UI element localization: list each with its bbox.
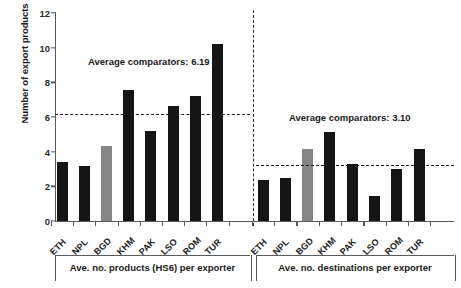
x-axis-category-label: KHM [115, 235, 137, 257]
x-axis-category-label: BGD [92, 236, 113, 257]
y-axis-tick-label: 2 [22, 181, 50, 192]
x-axis-category-label: PAK [137, 237, 157, 257]
y-axis-tick-mark [51, 151, 56, 152]
y-axis-tick-label: 6 [22, 112, 50, 123]
x-axis-tick-mark [184, 221, 185, 226]
bar [302, 149, 313, 221]
x-axis-tick-mark [319, 221, 320, 226]
x-axis-tick-mark [73, 221, 74, 226]
x-axis-category-label: ETH [48, 237, 68, 257]
x-axis-tick-mark [363, 221, 364, 226]
bar [391, 169, 402, 221]
x-axis-tick-mark [51, 221, 52, 226]
x-axis-tick-mark [341, 221, 342, 226]
y-axis-tick-label: 10 [22, 42, 50, 53]
bar [324, 132, 335, 221]
average-reference-line [55, 114, 250, 115]
group-frame-top [256, 255, 454, 256]
bar [347, 164, 358, 221]
y-axis-tick-mark [51, 47, 56, 48]
bar [123, 90, 134, 221]
bar [414, 149, 425, 221]
y-axis-tick-mark [51, 116, 56, 117]
x-axis-tick-mark [162, 221, 163, 226]
y-axis-tick-label: 12 [22, 8, 50, 19]
bar [280, 178, 291, 221]
bar-chart: Number of export products 024681012 ETHN… [0, 0, 461, 288]
bar [57, 162, 68, 221]
x-axis-tick-mark [430, 221, 431, 226]
x-axis-category-label: TUR [203, 237, 223, 257]
bar [145, 131, 156, 221]
y-axis-tick-label: 4 [22, 146, 50, 157]
x-axis-tick-mark [408, 221, 409, 226]
bar [101, 146, 112, 221]
group-frame-top [55, 255, 250, 256]
x-axis-category-label: NPL [70, 237, 90, 257]
x-axis-tick-mark [386, 221, 387, 226]
x-axis-category-label: ROM [181, 235, 203, 257]
x-axis-category-label: ROM [383, 235, 405, 257]
x-axis-category-label: NPL [271, 237, 291, 257]
x-axis-tick-mark [229, 221, 230, 226]
x-axis-tick-mark [296, 221, 297, 226]
x-axis-tick-mark [252, 221, 253, 226]
x-axis-category-label: ETH [249, 237, 269, 257]
bar [168, 106, 179, 221]
group-divider-line [253, 10, 254, 226]
x-axis-tick-mark [95, 221, 96, 226]
x-axis-category-label: KHM [316, 235, 338, 257]
x-axis-category-label: TUR [405, 237, 425, 257]
bar [190, 96, 201, 221]
average-reference-line [256, 165, 454, 166]
y-axis-tick-mark [51, 12, 56, 13]
bar [212, 44, 223, 221]
x-axis-tick-mark [206, 221, 207, 226]
x-axis-category-label: LSO [159, 237, 179, 257]
x-axis-tick-mark [118, 221, 119, 226]
y-axis-tick-label: 0 [22, 216, 50, 227]
x-axis-category-label: BGD [294, 236, 315, 257]
group-caption: Ave. no. products (HS6) per exporter [55, 262, 250, 273]
bar [258, 180, 269, 221]
average-reference-label: Average comparators: 6.19 [88, 56, 210, 67]
y-axis-tick-mark [51, 186, 56, 187]
group-caption: Ave. no. destinations per exporter [256, 262, 454, 273]
x-axis-tick-mark [274, 221, 275, 226]
bar [79, 166, 90, 221]
x-axis-category-label: LSO [360, 237, 380, 257]
y-axis-tick-label: 8 [22, 77, 50, 88]
bar [369, 196, 380, 221]
x-axis-tick-mark [140, 221, 141, 226]
average-reference-label: Average comparators: 3.10 [289, 112, 411, 123]
y-axis-tick-mark [51, 82, 56, 83]
x-axis-category-label: PAK [338, 237, 358, 257]
